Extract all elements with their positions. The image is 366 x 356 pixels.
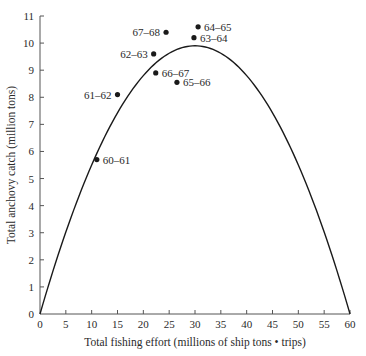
y-tick-label: 7: [29, 118, 35, 130]
y-axis-label: Total anchovy catch (million tons): [5, 86, 18, 244]
data-point: [115, 92, 120, 97]
data-point-label: 62–63: [120, 48, 148, 60]
x-tick-label: 50: [293, 318, 305, 330]
y-tick-label: 1: [29, 281, 35, 293]
data-point: [151, 51, 156, 56]
data-point: [163, 30, 168, 35]
x-tick-label: 60: [345, 318, 357, 330]
x-tick-label: 10: [86, 318, 98, 330]
x-tick-label: 55: [319, 318, 331, 330]
y-tick-label: 6: [29, 145, 35, 157]
x-tick-label: 0: [37, 318, 43, 330]
x-tick-label: 45: [267, 318, 279, 330]
y-tick-label: 10: [23, 37, 35, 49]
data-point: [191, 35, 196, 40]
data-point-label: 63–64: [200, 32, 228, 44]
x-tick-label: 25: [164, 318, 176, 330]
anchovy-yield-chart: 051015202530354045505560 01234567891011 …: [0, 0, 366, 356]
data-point: [153, 70, 158, 75]
y-tick-label: 9: [29, 64, 35, 76]
y-tick-label: 2: [29, 254, 35, 266]
data-point-label: 61–62: [84, 89, 112, 101]
y-tick-label: 3: [29, 227, 35, 239]
x-tick-label: 35: [215, 318, 227, 330]
y-tick-label: 0: [29, 308, 35, 320]
x-tick-label: 15: [112, 318, 124, 330]
axes: [40, 16, 350, 314]
data-point: [174, 80, 179, 85]
x-axis-ticks: 051015202530354045505560: [37, 310, 356, 330]
y-tick-label: 11: [23, 10, 34, 22]
data-point-label: 67–68: [133, 26, 161, 38]
data-points: 60–6161–6262–6363–6464–6565–6666–6767–68: [84, 21, 232, 166]
data-point-label: 64–65: [204, 21, 232, 33]
x-axis-label: Total fishing effort (millions of ship t…: [84, 336, 306, 349]
y-tick-label: 5: [29, 173, 35, 185]
x-tick-label: 20: [138, 318, 150, 330]
x-tick-label: 40: [241, 318, 253, 330]
data-point-label: 66–67: [162, 67, 190, 79]
y-tick-label: 8: [29, 91, 35, 103]
data-point: [196, 24, 201, 29]
x-tick-label: 5: [63, 318, 69, 330]
data-point: [94, 157, 99, 162]
y-tick-label: 4: [29, 200, 35, 212]
data-point-label: 60–61: [103, 154, 131, 166]
y-axis-ticks: 01234567891011: [23, 10, 44, 320]
x-tick-label: 30: [190, 318, 202, 330]
